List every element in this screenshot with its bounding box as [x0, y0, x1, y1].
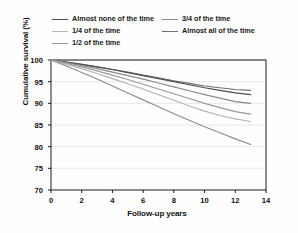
- x-tick-label: 2: [72, 196, 92, 205]
- legend-swatch-icon: [52, 31, 68, 32]
- legend-swatch-icon: [162, 31, 178, 32]
- chart-legend: Almost none of the time 3/4 of the time …: [52, 13, 288, 49]
- x-tick-label: 12: [225, 196, 245, 205]
- y-tick-label: 90: [17, 99, 43, 108]
- legend-item-one-quarter-of-the-time: 1/4 of the time: [52, 25, 162, 37]
- legend-swatch-icon: [162, 19, 178, 20]
- legend-item-almost-all-of-the-time: Almost all of the time: [162, 25, 288, 37]
- legend-label: 3/4 of the time: [182, 15, 230, 22]
- y-tick-label: 80: [17, 142, 43, 151]
- x-axis-title: Follow-up years: [48, 209, 266, 218]
- x-tick-label: 4: [102, 196, 122, 205]
- y-tick-label: 95: [17, 77, 43, 86]
- legend-label: 1/4 of the time: [72, 27, 120, 34]
- survival-curves: [51, 60, 251, 145]
- legend-swatch-icon: [52, 43, 68, 44]
- y-tick-label: 100: [17, 56, 43, 65]
- x-tick-label: 14: [256, 196, 276, 205]
- gridlines: [51, 60, 266, 168]
- legend-label: Almost all of the time: [182, 27, 255, 34]
- x-tick-label: 0: [41, 196, 61, 205]
- x-tick-label: 8: [164, 196, 184, 205]
- x-tick-label: 6: [133, 196, 153, 205]
- legend-item-one-half-of-the-time: 1/2 of the time: [52, 37, 162, 49]
- y-tick-label: 85: [17, 121, 43, 130]
- x-axis-tick-labels: 0 2 4 6 8 10 12 14: [0, 196, 298, 208]
- survival-curve: [51, 60, 251, 145]
- survival-chart-figure: Almost none of the time 3/4 of the time …: [0, 0, 298, 233]
- y-tick-label: 75: [17, 164, 43, 173]
- legend-item-three-quarters-of-the-time: 3/4 of the time: [162, 13, 288, 25]
- legend-label: Almost none of the time: [72, 15, 154, 22]
- y-tick-label: 70: [17, 186, 43, 195]
- legend-label: 1/2 of the time: [72, 39, 120, 46]
- legend-swatch-icon: [52, 19, 68, 20]
- x-tick-label: 10: [195, 196, 215, 205]
- legend-item-almost-none-of-the-time: Almost none of the time: [52, 13, 162, 25]
